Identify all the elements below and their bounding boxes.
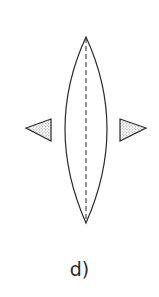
lens-diagram xyxy=(0,0,159,297)
right-fin-shape xyxy=(120,119,146,141)
figure-caption: d) xyxy=(0,258,159,280)
left-fin-shape xyxy=(26,119,51,141)
